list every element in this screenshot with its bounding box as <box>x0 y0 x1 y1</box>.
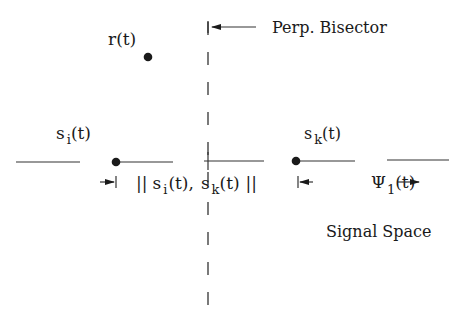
bisector-label: Perp. Bisector <box>272 18 387 37</box>
distance-right-arrow-icon <box>298 176 313 188</box>
received-signal-point <box>144 53 153 62</box>
distance-left-arrow-icon <box>100 176 116 188</box>
basis-function-label: Ψ1(t) <box>371 172 415 197</box>
signal-i-point <box>112 158 121 167</box>
signal-k-point <box>292 157 301 166</box>
signal-i-label: si(t) <box>56 123 91 147</box>
signal-space-diagram: Perp. Bisector r(t) si(t) sk(t) ||si(t),… <box>0 0 464 330</box>
signal-axis <box>16 160 449 162</box>
received-signal-label: r(t) <box>108 29 136 49</box>
signal-k-label: sk(t) <box>304 124 341 147</box>
distance-expression: ||si(t),sk(t)|| <box>136 173 257 197</box>
signal-space-title: Signal Space <box>326 222 432 241</box>
